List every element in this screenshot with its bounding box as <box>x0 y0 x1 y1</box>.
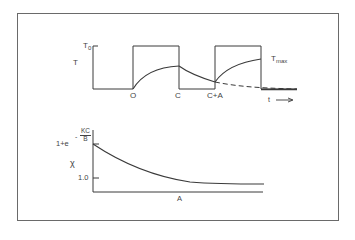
t0-label: T0 <box>83 42 91 50</box>
bottom-y-axis-label: χ <box>70 159 75 168</box>
bottom-panel-plot <box>93 130 264 192</box>
x-tick-c-plus-a: C+A <box>207 92 223 100</box>
bottom-x-axis-label: A <box>177 195 182 203</box>
tmax-label: Tmax <box>271 55 287 63</box>
response-rise-2 <box>215 59 261 82</box>
chi-decay-curve <box>93 144 264 184</box>
response-rise-1 <box>133 66 179 89</box>
y-tick-one-label: 1.0 <box>78 174 88 182</box>
top-y-axis-label: T <box>73 59 78 67</box>
x-tick-c: C <box>175 92 181 100</box>
exp-denominator: B <box>80 136 91 143</box>
tmax-sub: max <box>276 58 287 64</box>
y-tick-top-exp-sign: - <box>75 133 77 140</box>
x-tick-o: O <box>130 92 136 100</box>
y-tick-top-prefix: 1+e <box>56 140 69 148</box>
time-axis-label: t <box>268 96 270 103</box>
response-decay-1 <box>179 66 215 82</box>
pulse-1 <box>133 46 179 89</box>
y-tick-top-exp-fraction: KC B <box>80 128 91 142</box>
response-decay-dashed <box>215 82 297 89</box>
t0-sub: 0 <box>88 45 91 51</box>
pulse-2 <box>215 46 261 89</box>
top-panel-plot <box>93 46 297 102</box>
